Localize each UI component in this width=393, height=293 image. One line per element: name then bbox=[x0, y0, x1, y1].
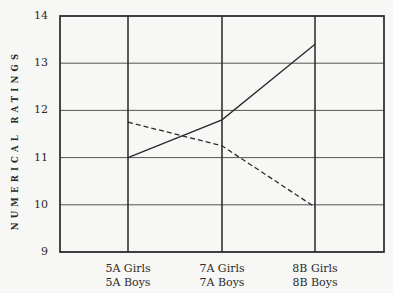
y-tick-label: 10 bbox=[28, 198, 48, 211]
x-tick-label-boys: 7A Boys bbox=[182, 276, 262, 290]
x-tick-label-girls: 7A Girls bbox=[182, 262, 262, 276]
y-tick-label: 11 bbox=[28, 151, 48, 164]
y-tick-label: 14 bbox=[28, 9, 48, 22]
x-tick-label-8B: 8B Girls8B Boys bbox=[275, 262, 355, 290]
x-tick-label-boys: 8B Boys bbox=[275, 276, 355, 290]
y-tick-label: 13 bbox=[28, 56, 48, 69]
y-tick-label: 12 bbox=[28, 103, 48, 116]
y-axis-label: NUMERICAL RATINGS bbox=[6, 52, 24, 228]
y-tick-label: 9 bbox=[28, 245, 48, 258]
x-tick-label-girls: 8B Girls bbox=[275, 262, 355, 276]
x-tick-label-5A: 5A Girls5A Boys bbox=[88, 262, 168, 290]
chart-plot-area bbox=[0, 0, 393, 293]
x-tick-label-7A: 7A Girls7A Boys bbox=[182, 262, 262, 290]
x-tick-label-girls: 5A Girls bbox=[88, 262, 168, 276]
y-axis-label-text: NUMERICAL RATINGS bbox=[10, 50, 20, 230]
x-tick-label-boys: 5A Boys bbox=[88, 276, 168, 290]
